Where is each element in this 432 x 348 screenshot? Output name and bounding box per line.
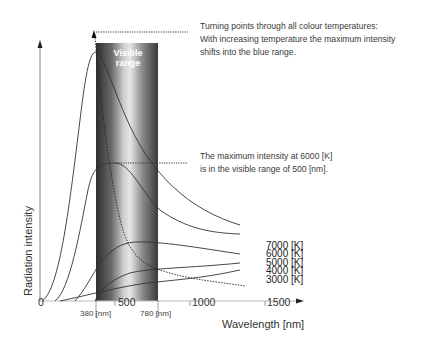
sub-tick-380: 380 [nm]: [80, 309, 111, 318]
annotation-turning-points: Turning points through all colour temper…: [200, 20, 395, 59]
x-tick-1500: 1500: [267, 296, 290, 308]
visible-range-label: Visible range: [108, 48, 148, 68]
legend-3000k: 3000 [K]: [266, 276, 303, 284]
annotation-max-6000k: The maximum intensity at 6000 [K] is in …: [200, 150, 332, 176]
annotation-top-line-1: Turning points through all colour temper…: [200, 20, 395, 33]
y-axis-label: Radiation intensity: [22, 206, 34, 296]
x-tick-0: 0: [38, 296, 44, 308]
y-axis: [38, 40, 43, 301]
x-axis: [40, 299, 304, 307]
annotation-top-line-2: With increasing temperature the maximum …: [200, 33, 395, 46]
annotation-middle-line-1: The maximum intensity at 6000 [K]: [200, 150, 332, 163]
visible-label-line2: range: [108, 58, 148, 68]
visible-label-line1: Visible: [108, 48, 148, 58]
x-tick-500: 500: [118, 296, 136, 308]
locus-arrow-icon: [92, 30, 97, 38]
annotation-top-line-3: shifts into the blue range.: [200, 46, 395, 59]
x-axis-label: Wavelength [nm]: [222, 318, 304, 330]
legend: 7000 [K] 6000 [K] 5000 [K] 4000 [K] 3000…: [266, 242, 303, 284]
annotation-middle-line-2: is in the visible range of 500 [nm].: [200, 163, 332, 176]
visible-range-band: [96, 43, 158, 301]
x-tick-1000: 1000: [192, 296, 215, 308]
sub-tick-780: 780 [nm]: [140, 309, 171, 318]
